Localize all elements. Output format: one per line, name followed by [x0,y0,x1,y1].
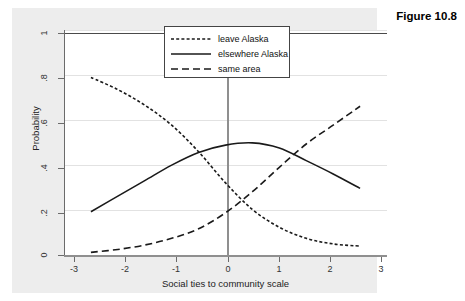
y-tick-06 [58,123,64,124]
x-tick-label-2: 2 [320,264,340,274]
legend-key-dotted-icon [170,34,212,44]
y-tick-04 [58,168,64,169]
y-tick-02 [58,213,64,214]
x-tick-3 [381,257,382,262]
y-tick-label-08: .8 [39,68,49,88]
curve-leave-alaska [91,77,360,246]
x-tick-0 [228,257,229,262]
x-tick-label-m1: -1 [166,264,186,274]
x-tick-label-m3: -3 [64,264,84,274]
curve-elsewhere-alaska [91,143,360,212]
x-tick-label-3: 3 [371,264,391,274]
x-tick-label-m2: -2 [115,264,135,274]
legend-item-same-area[interactable]: same area [170,61,284,76]
legend-item-elsewhere-alaska[interactable]: elsewhere Alaska [170,46,284,61]
figure-caption: Figure 10.8 [396,10,457,22]
figure-panel: 1 .8 .6 .4 .2 0 Probability -3 -2 -1 0 1… [12,8,377,293]
y-tick-label-06: .6 [39,113,49,133]
y-tick-08 [58,78,64,79]
y-tick-0 [58,255,64,256]
x-tick-m1 [176,257,177,262]
x-tick-m2 [125,257,126,262]
x-tick-m3 [74,257,75,262]
y-tick-label-1: 1 [39,23,49,43]
legend-key-solid-icon [170,49,212,59]
legend-item-leave-alaska[interactable]: leave Alaska [170,31,284,46]
x-tick-1 [279,257,280,262]
x-tick-2 [330,257,331,262]
legend-key-dashed-icon [170,64,212,74]
curve-same-area [91,106,360,252]
y-tick-label-0: 0 [39,245,49,265]
figure-container: 1 .8 .6 .4 .2 0 Probability -3 -2 -1 0 1… [0,0,465,301]
y-axis-title: Probability [30,84,41,174]
legend-label-same-area: same area [218,64,261,74]
legend-label-elsewhere-alaska: elsewhere Alaska [218,49,288,59]
y-tick-label-02: .2 [39,203,49,223]
y-tick-1 [58,33,64,34]
x-tick-label-0: 0 [218,264,238,274]
x-tick-label-1: 1 [269,264,289,274]
y-tick-label-04: .4 [39,158,49,178]
x-axis-title: Social ties to community scale [64,278,387,289]
chart-legend: leave Alaska elsewhere Alaska same area [164,26,290,78]
legend-label-leave-alaska: leave Alaska [218,34,269,44]
